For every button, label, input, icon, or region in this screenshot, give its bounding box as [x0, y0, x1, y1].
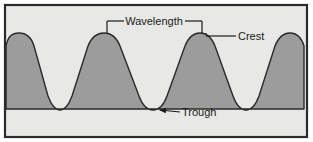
wave-diagram-canvas: Wavelength Crest Trough: [0, 0, 313, 142]
trough-label: Trough: [182, 106, 216, 118]
crest-label: Crest: [238, 30, 264, 42]
wave-diagram-figure: Wavelength Crest Trough: [0, 0, 313, 142]
wavelength-label: Wavelength: [125, 15, 183, 27]
